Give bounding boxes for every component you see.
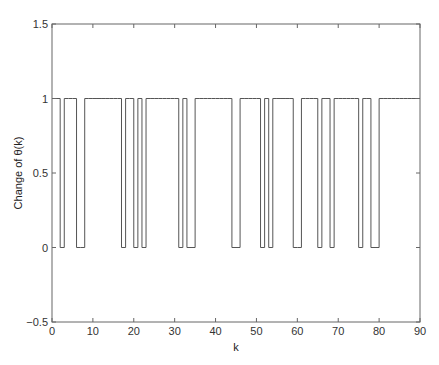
y-tick-label: 0 (42, 242, 48, 254)
axes-frame (52, 24, 420, 322)
y-tick-label: 1 (42, 93, 48, 105)
y-tick-label: 0.5 (33, 167, 48, 179)
stairs-series (52, 99, 420, 248)
x-tick-label: 50 (250, 325, 262, 337)
x-tick-label: 0 (49, 325, 55, 337)
x-tick-label: 20 (128, 325, 140, 337)
x-tick-label: 90 (414, 325, 426, 337)
chart-canvas: 0102030405060708090 −0.500.511.5 k Chang… (0, 0, 439, 365)
y-axis-ticks: −0.500.511.5 (26, 18, 420, 328)
x-tick-label: 30 (169, 325, 181, 337)
y-tick-label: −0.5 (26, 316, 48, 328)
axes (52, 24, 420, 322)
x-tick-label: 80 (373, 325, 385, 337)
x-tick-label: 60 (291, 325, 303, 337)
y-tick-label: 1.5 (33, 18, 48, 30)
x-tick-label: 10 (87, 325, 99, 337)
x-axis-ticks: 0102030405060708090 (49, 24, 426, 337)
y-axis-label: Change of θ(k) (12, 137, 24, 210)
x-axis-label: k (233, 341, 239, 353)
plot-area (52, 99, 420, 248)
x-tick-label: 40 (209, 325, 221, 337)
x-tick-label: 70 (332, 325, 344, 337)
